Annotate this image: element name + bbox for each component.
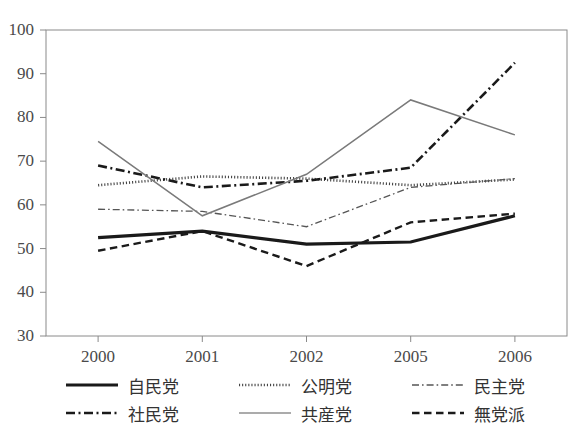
- legend-item-mutouha: 無党派: [392, 401, 565, 426]
- x-tick-label: 2000: [63, 348, 133, 365]
- legend-swatch-kyosanto: [237, 405, 293, 421]
- legend-swatch-minshuto: [410, 377, 466, 393]
- x-tick-label: 2005: [376, 348, 446, 365]
- legend-swatch-mutouha: [410, 405, 466, 421]
- legend-row-bottom: 社民党 共産党 無党派: [46, 399, 567, 427]
- legend-label-mutouha: 無党派: [474, 401, 525, 426]
- legend-swatch-jiminto: [64, 377, 120, 393]
- y-tick-label: 50: [0, 240, 34, 257]
- y-tick-label: 90: [0, 65, 34, 82]
- x-axis-tick-marks: [98, 336, 515, 342]
- legend-label-shaminto: 社民党: [128, 401, 179, 426]
- legend-label-kyosanto: 共産党: [301, 401, 352, 426]
- legend-item-kyosanto: 共産党: [219, 401, 392, 426]
- y-tick-label: 100: [0, 21, 34, 38]
- legend-label-jiminto: 自民党: [128, 373, 179, 398]
- legend-label-minshuto: 民主党: [474, 373, 525, 398]
- x-tick-label: 2006: [480, 348, 550, 365]
- y-tick-label: 70: [0, 152, 34, 169]
- series-line-5: [98, 214, 515, 266]
- legend-row-top: 自民党 公明党 民主党: [46, 371, 567, 399]
- series-line-4: [98, 100, 515, 216]
- legend-item-jiminto: 自民党: [46, 373, 219, 398]
- legend-label-komeito: 公明党: [301, 373, 352, 398]
- y-tick-label: 80: [0, 108, 34, 125]
- legend-swatch-komeito: [237, 377, 293, 393]
- x-tick-label: 2001: [167, 348, 237, 365]
- legend-swatch-shaminto: [64, 405, 120, 421]
- data-series-layer: [98, 63, 515, 266]
- series-line-3: [98, 63, 515, 188]
- y-tick-label: 40: [0, 283, 34, 300]
- x-tick-label: 2002: [272, 348, 342, 365]
- y-axis-tick-marks: [40, 30, 46, 336]
- legend-item-minshuto: 民主党: [392, 373, 565, 398]
- legend-item-shaminto: 社民党: [46, 401, 219, 426]
- y-tick-label: 30: [0, 327, 34, 344]
- plot-frame: [46, 30, 567, 336]
- y-tick-label: 60: [0, 196, 34, 213]
- legend-item-komeito: 公明党: [219, 373, 392, 398]
- chart-legend: 自民党 公明党 民主党 社民党: [46, 371, 567, 427]
- line-chart-figure: 30405060708090100 20002001200220052006 自…: [0, 0, 578, 429]
